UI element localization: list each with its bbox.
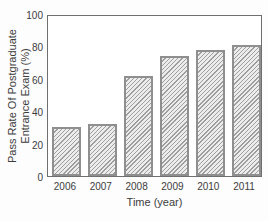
x-axis-title: Time (year) — [47, 196, 262, 208]
x-tick-label-2006: 2006 — [45, 181, 85, 192]
plot-area — [47, 15, 262, 177]
y-tick-label-60: 60 — [14, 75, 43, 86]
bar-2009 — [160, 56, 189, 176]
y-tick-label-40: 40 — [14, 107, 43, 118]
y-tick-label-0: 0 — [14, 172, 43, 183]
bar-2010 — [196, 50, 225, 176]
y-tick-label-20: 20 — [14, 140, 43, 151]
bar-2008 — [124, 76, 153, 176]
y-tick-label-80: 80 — [14, 42, 43, 53]
bar-2006 — [52, 127, 81, 176]
x-tick-label-2010: 2010 — [188, 181, 228, 192]
bar-chart-figure: Pass Rate Of Postgraduate Entrance Exam … — [0, 0, 268, 221]
bar-2007 — [88, 124, 117, 176]
x-tick-label-2009: 2009 — [152, 181, 192, 192]
x-tick-label-2007: 2007 — [81, 181, 121, 192]
y-tick-label-100: 100 — [14, 10, 43, 21]
x-tick-label-2011: 2011 — [224, 181, 264, 192]
bar-2011 — [232, 45, 261, 176]
x-tick-label-2008: 2008 — [117, 181, 157, 192]
